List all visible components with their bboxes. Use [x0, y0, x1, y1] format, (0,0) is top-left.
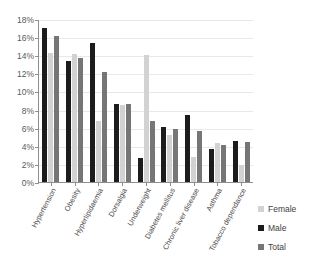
y-tick-label: 12% — [4, 70, 34, 78]
legend-swatch-female-icon — [258, 206, 264, 212]
y-tick-label: 4% — [4, 143, 34, 151]
bar-groups — [39, 20, 253, 182]
bar-total — [78, 58, 83, 182]
bar-male — [90, 43, 95, 182]
bar-group — [134, 20, 158, 182]
y-tick-label: 16% — [4, 34, 34, 42]
bar-female — [96, 121, 101, 182]
bar-male — [138, 158, 143, 182]
bar-group — [110, 20, 134, 182]
bar-male — [42, 28, 47, 182]
bar-male — [185, 115, 190, 182]
y-tick-label: 14% — [4, 52, 34, 60]
bar-group — [205, 20, 229, 182]
bar-female — [167, 135, 172, 182]
y-tick-label: 2% — [4, 161, 34, 169]
bar-group — [158, 20, 182, 182]
y-tick-label: 8% — [4, 107, 34, 115]
y-tick-label: 0% — [4, 179, 34, 187]
y-tick-label: 10% — [4, 88, 34, 96]
legend-swatch-total-icon — [258, 244, 264, 250]
bar-male — [66, 61, 71, 182]
x-axis-labels: HypertensionObesityHyperlipidaemiaDorsal… — [38, 184, 253, 270]
bar-female — [144, 55, 149, 182]
bar-total — [54, 36, 59, 182]
bar-female — [215, 143, 220, 182]
bar-group — [229, 20, 253, 182]
bar-group — [87, 20, 111, 182]
bar-female — [48, 53, 53, 182]
bar-female — [191, 157, 196, 182]
chart-legend: FemaleMaleTotal — [258, 199, 312, 256]
bar-female — [239, 165, 244, 182]
bar-total — [102, 72, 107, 182]
bar-total — [245, 142, 250, 182]
y-tick-label: 18% — [4, 16, 34, 24]
bar-female — [72, 54, 77, 182]
bar-group — [63, 20, 87, 182]
bar-total — [197, 131, 202, 182]
bar-chart: 18%16%14%12%10%8%6%4%2%0% HypertensionOb… — [0, 0, 314, 277]
bar-male — [161, 127, 166, 182]
plot-area — [38, 20, 253, 183]
bar-male — [209, 149, 214, 183]
bar-male — [233, 141, 238, 182]
legend-item-female[interactable]: Female — [258, 199, 312, 218]
bar-male — [114, 104, 119, 182]
bar-total — [150, 121, 155, 182]
bar-total — [221, 145, 226, 182]
legend-item-total[interactable]: Total — [258, 237, 312, 256]
x-tick-label: Hypertension — [0, 187, 58, 277]
bar-total — [173, 129, 178, 182]
legend-item-male[interactable]: Male — [258, 218, 312, 237]
legend-label: Total — [268, 242, 286, 252]
bar-group — [182, 20, 206, 182]
y-tick-label: 6% — [4, 125, 34, 133]
bar-total — [126, 104, 131, 182]
legend-label: Female — [268, 204, 296, 214]
bar-group — [39, 20, 63, 182]
legend-swatch-male-icon — [258, 225, 264, 231]
bar-female — [120, 105, 125, 182]
legend-label: Male — [268, 223, 286, 233]
